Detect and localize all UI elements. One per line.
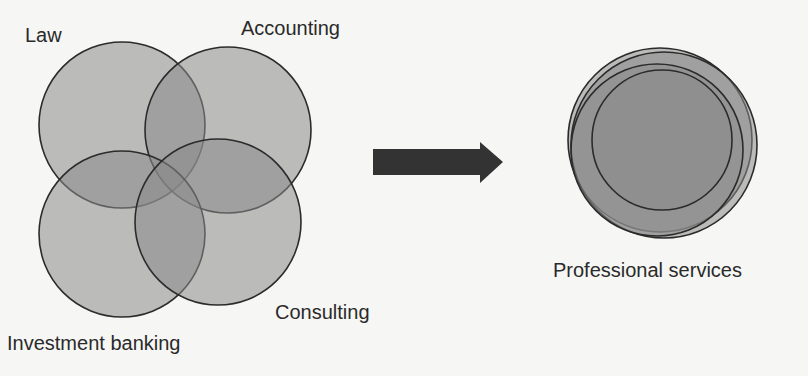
merged-circle-4 [592,70,732,210]
left-venn-group [39,42,311,317]
label-consulting: Consulting [275,301,370,323]
label-professional-services: Professional services [553,259,742,281]
diagram-canvas: Law Accounting Investment banking Consul… [0,0,808,376]
right-arrow-icon [373,142,503,183]
label-investment-banking: Investment banking [7,332,180,354]
label-accounting: Accounting [241,17,340,39]
merged-circles-group [568,48,757,238]
label-law: Law [25,24,62,46]
circle-consulting [135,139,301,305]
